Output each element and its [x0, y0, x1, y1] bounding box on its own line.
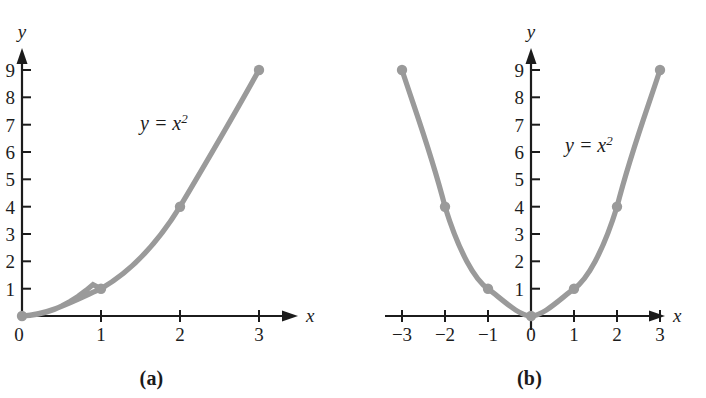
- data-point-marker: [569, 284, 579, 294]
- panel-a: 1 2 3 4 5 6 7 8 9 0 1 2 3 y x y = x2 (a): [0, 0, 353, 398]
- data-point-marker: [440, 202, 450, 212]
- y-ticks-a: [22, 70, 31, 289]
- y-axis-label: y: [525, 21, 536, 42]
- panel-b: 1 2 3 4 5 6 7 8 9 −3 −2 −1 0 1 2 3 y x y…: [353, 0, 706, 398]
- y-tick-label: 9: [6, 60, 16, 81]
- y-tick-label: 1: [515, 279, 525, 300]
- y-ticks-b: [531, 70, 540, 289]
- equation-annotation: y = x2: [138, 111, 188, 135]
- plot-a: 1 2 3 4 5 6 7 8 9 0 1 2 3 y x y = x2: [0, 0, 353, 398]
- x-tick-label: 0: [14, 324, 24, 345]
- data-point-marker: [655, 65, 665, 75]
- data-point-marker: [96, 284, 106, 294]
- y-tick-label: 3: [515, 224, 525, 245]
- y-tick-label: 1: [6, 279, 16, 300]
- x-tick-label: 2: [175, 324, 185, 345]
- x-tick-label: 0: [526, 324, 536, 345]
- y-tick-label: 8: [6, 87, 16, 108]
- y-tick-label: 5: [515, 169, 525, 190]
- panel-caption-a: (a): [0, 367, 328, 390]
- data-point-marker: [175, 202, 185, 212]
- y-tick-label: 8: [515, 87, 525, 108]
- curve-a: [22, 70, 259, 316]
- equation-annotation: y = x2: [563, 133, 613, 157]
- equation-base: y = x: [563, 134, 606, 157]
- equation-exponent: 2: [181, 111, 188, 126]
- x-tick-label: 1: [96, 324, 106, 345]
- y-axis-arrowhead-b: [526, 48, 537, 64]
- x-tick-label: 1: [569, 324, 579, 345]
- panel-caption-b: (b): [353, 367, 706, 390]
- y-tick-label: 2: [6, 251, 16, 272]
- equation-exponent: 2: [606, 133, 613, 148]
- x-tick-label: 2: [612, 324, 622, 345]
- y-tick-label: 7: [515, 115, 525, 136]
- y-tick-label: 4: [515, 197, 525, 218]
- x-axis-label: x: [672, 305, 682, 326]
- data-point-marker: [483, 284, 493, 294]
- y-axis-label: y: [16, 21, 27, 42]
- y-axis-arrowhead-a: [17, 48, 28, 64]
- x-tick-label: 3: [254, 324, 264, 345]
- equation-base: y = x: [138, 112, 181, 135]
- figure-container: 1 2 3 4 5 6 7 8 9 0 1 2 3 y x y = x2 (a): [0, 0, 706, 398]
- x-tick-label: −2: [435, 324, 455, 345]
- y-tick-label: 6: [515, 142, 525, 163]
- y-tick-label: 6: [6, 142, 16, 163]
- data-point-marker: [254, 65, 264, 75]
- x-axis-arrowhead-b: [649, 311, 665, 322]
- y-tick-label: 9: [515, 60, 525, 81]
- x-axis-arrowhead-a: [282, 311, 298, 322]
- y-tick-label: 3: [6, 224, 16, 245]
- y-tick-label: 7: [6, 115, 16, 136]
- data-point-marker: [612, 202, 622, 212]
- data-points-a: [17, 65, 264, 321]
- x-tick-label: −3: [392, 324, 412, 345]
- x-tick-label: 3: [655, 324, 665, 345]
- y-tick-label: 4: [6, 197, 16, 218]
- x-tick-label: −1: [478, 324, 498, 345]
- x-axis-label: x: [305, 305, 315, 326]
- y-tick-label: 5: [6, 169, 16, 190]
- y-tick-label: 2: [515, 251, 525, 272]
- plot-b: 1 2 3 4 5 6 7 8 9 −3 −2 −1 0 1 2 3 y x y…: [353, 0, 706, 398]
- data-point-marker: [17, 311, 27, 321]
- data-point-marker: [526, 311, 536, 321]
- data-point-marker: [397, 65, 407, 75]
